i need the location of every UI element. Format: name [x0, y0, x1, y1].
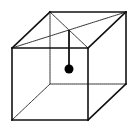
cube-edge — [12, 12, 50, 48]
pendulum — [65, 30, 74, 74]
cube-diagram — [0, 0, 136, 128]
pendulum-bob — [65, 65, 74, 74]
cube-edge — [88, 84, 126, 120]
cube-wireframe — [0, 0, 136, 128]
hidden-edge — [12, 84, 50, 120]
cube-edge — [88, 12, 126, 48]
